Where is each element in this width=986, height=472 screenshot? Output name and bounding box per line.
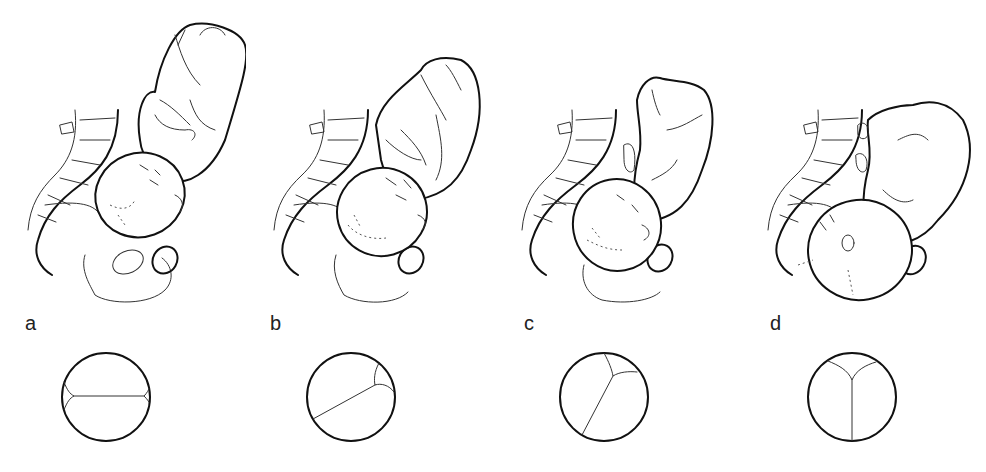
suture-diagram-c: [492, 0, 738, 472]
suture-diagram-a: [0, 0, 246, 472]
panel-d: d: [738, 0, 984, 472]
suture-diagram-b: [246, 0, 492, 472]
panel-c: c: [492, 0, 738, 472]
panel-b: b: [246, 0, 492, 472]
suture-diagram-d: [738, 0, 986, 472]
panel-a: a: [0, 0, 246, 472]
